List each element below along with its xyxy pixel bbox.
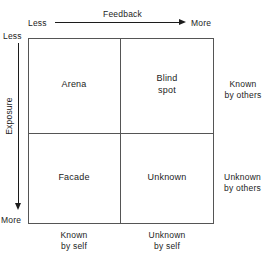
row-label-known-by-others: Known by others (216, 79, 270, 101)
quadrant-facade-label-line1: Facade (29, 172, 119, 184)
vertical-axis-arrow-icon (15, 203, 21, 210)
johari-window-diagram: Feedback Less More Less Exposure More Ar… (0, 0, 271, 255)
horizontal-axis-end-label: More (191, 18, 211, 29)
quadrant-unknown: Unknown (121, 172, 213, 184)
quadrant-arena: Arena (29, 79, 119, 91)
horizontal-axis-line (55, 22, 181, 23)
row-label-unknown-by-others: Unknown by others (214, 172, 271, 194)
grid-divider-horizontal (28, 133, 214, 134)
vertical-axis-title: Exposure (4, 90, 14, 142)
quadrant-blind-spot-label-line2: spot (121, 85, 213, 97)
quadrant-arena-label-line1: Arena (29, 79, 119, 91)
horizontal-axis-arrow-icon (179, 19, 186, 25)
quadrant-unknown-label-line1: Unknown (121, 172, 213, 184)
row-label-known-by-others-line2: by others (216, 90, 270, 101)
grid-divider-vertical (120, 38, 121, 224)
row-label-known-by-others-line1: Known (216, 79, 270, 90)
quadrant-facade: Facade (29, 172, 119, 184)
vertical-axis-line (18, 43, 19, 205)
row-label-unknown-by-others-line2: by others (214, 183, 271, 194)
column-label-unknown-by-self-line1: Unknown (121, 230, 213, 241)
window-outer-border (28, 38, 214, 224)
column-label-known-by-self-line2: by self (29, 241, 119, 252)
vertical-axis-end-label: More (1, 215, 21, 226)
column-label-known-by-self-line1: Known (29, 230, 119, 241)
horizontal-axis-start-label: Less (28, 18, 47, 29)
column-label-unknown-by-self: Unknown by self (121, 230, 213, 252)
column-label-known-by-self: Known by self (29, 230, 119, 252)
row-label-unknown-by-others-line1: Unknown (214, 172, 271, 183)
vertical-axis-start-label: Less (3, 31, 22, 42)
column-label-unknown-by-self-line2: by self (121, 241, 213, 252)
quadrant-blind-spot: Blind spot (121, 73, 213, 96)
quadrant-blind-spot-label-line1: Blind (121, 73, 213, 85)
